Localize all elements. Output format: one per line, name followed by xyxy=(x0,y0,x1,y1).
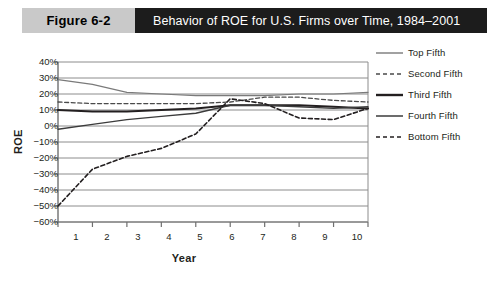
y-tick-label: 20% xyxy=(12,89,58,99)
x-tick-label: 1 xyxy=(66,231,86,242)
y-tick-label: −20% xyxy=(12,153,58,163)
x-tick-label: 2 xyxy=(97,231,117,242)
y-tick-label: 40% xyxy=(12,57,58,67)
figure-number-tag: Figure 6-2 xyxy=(22,8,137,33)
y-tick-label: −40% xyxy=(12,185,58,195)
x-tick-label: 5 xyxy=(190,231,210,242)
legend-item-top-fifth: Top Fifth xyxy=(376,42,502,63)
legend-item-fourth-fifth: Fourth Fifth xyxy=(376,105,502,126)
x-tick-label: 8 xyxy=(284,231,304,242)
figure-header-band: Figure 6-2 Behavior of ROE for U.S. Firm… xyxy=(22,8,487,33)
x-tick-label: 7 xyxy=(253,231,273,242)
legend-swatch-solid xyxy=(376,112,403,120)
y-tick-label: −30% xyxy=(12,169,58,179)
legend-label: Bottom Fifth xyxy=(408,131,460,142)
y-tick-label: −60% xyxy=(12,217,58,227)
legend-item-bottom-fifth: Bottom Fifth xyxy=(376,126,502,147)
series-line-second-fifth xyxy=(58,97,368,103)
y-axis-tick-labels: 40% 30% 20% 10% 0% −10% −20% −30% −40% −… xyxy=(12,36,58,236)
legend-label: Second Fifth xyxy=(408,68,463,79)
y-tick-label: −10% xyxy=(12,137,58,147)
x-tick-label: 6 xyxy=(222,231,242,242)
x-tick-label: 3 xyxy=(128,231,148,242)
legend-swatch-solid-thick xyxy=(376,91,403,99)
chart-legend: Top Fifth Second Fifth Third Fifth Fourt… xyxy=(376,42,502,147)
y-tick-label: −50% xyxy=(12,201,58,211)
legend-label: Fourth Fifth xyxy=(408,110,458,121)
x-axis-title: Year xyxy=(0,252,368,264)
legend-swatch-dashed xyxy=(376,70,403,78)
y-tick-label: 30% xyxy=(12,73,58,83)
x-tick-label: 9 xyxy=(315,231,335,242)
y-tick-label: 10% xyxy=(12,105,58,115)
legend-label: Top Fifth xyxy=(408,47,445,58)
legend-label: Third Fifth xyxy=(408,89,452,100)
legend-swatch-solid xyxy=(376,49,403,57)
legend-item-third-fifth: Third Fifth xyxy=(376,84,502,105)
legend-swatch-dashed xyxy=(376,133,403,141)
y-tick-label: 0% xyxy=(12,121,58,131)
series-line-top-fifth xyxy=(58,80,368,96)
figure-title: Behavior of ROE for U.S. Firms over Time… xyxy=(137,8,487,33)
x-tick-label: 4 xyxy=(159,231,179,242)
figure-root: Figure 6-2 Behavior of ROE for U.S. Firm… xyxy=(0,0,504,281)
legend-item-second-fifth: Second Fifth xyxy=(376,63,502,84)
x-tick-label: 10 xyxy=(347,231,367,242)
